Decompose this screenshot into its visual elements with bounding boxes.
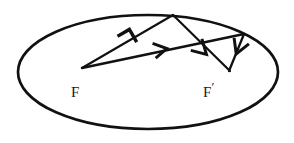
reflected-top-to-fprime [173, 15, 230, 71]
arrow-outgoing-lower-icon [153, 41, 169, 58]
focus-label-right: F′ [203, 85, 215, 100]
ellipse-reflection-figure: F F′ [0, 0, 294, 143]
focus-label-left-text: F [71, 84, 80, 100]
focus-label-left: F [71, 85, 80, 100]
ray-f-to-top-vertex [82, 15, 173, 68]
figure-canvas [0, 0, 294, 143]
focus-label-right-prime: ′ [212, 79, 215, 94]
ellipse-boundary [18, 15, 278, 129]
focus-label-right-text: F [203, 84, 212, 100]
